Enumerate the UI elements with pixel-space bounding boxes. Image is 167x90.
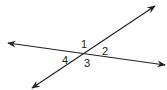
- angle-label-2: 2: [102, 45, 108, 57]
- angle-diagram: 1 2 4 3: [0, 0, 167, 90]
- angle-label-4: 4: [62, 54, 68, 66]
- angle-label-1: 1: [81, 38, 87, 50]
- angle-label-3: 3: [84, 57, 90, 69]
- line-b: [32, 6, 155, 88]
